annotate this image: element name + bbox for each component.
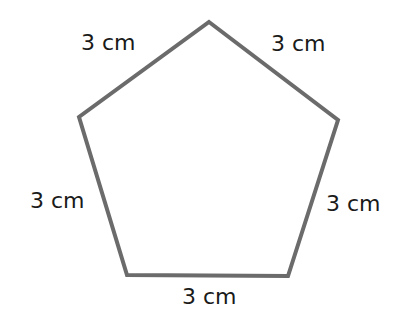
side-label-right: 3 cm bbox=[326, 193, 381, 215]
side-label-left: 3 cm bbox=[30, 190, 85, 212]
side-label-top-left: 3 cm bbox=[81, 32, 136, 54]
side-label-bottom: 3 cm bbox=[182, 286, 237, 308]
pentagon-shape bbox=[79, 22, 338, 276]
side-label-top-right: 3 cm bbox=[271, 33, 326, 55]
pentagon-figure bbox=[0, 0, 413, 322]
